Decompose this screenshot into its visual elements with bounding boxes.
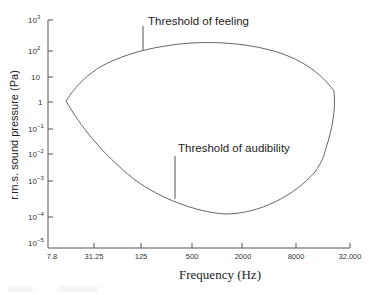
audibility-annotation: Threshold of audibility [178, 142, 290, 154]
y-ticks [48, 20, 53, 217]
threshold-of-feeling-curve [66, 43, 334, 101]
svg-text:31.25: 31.25 [85, 252, 104, 261]
svg-text:1: 1 [38, 98, 43, 107]
svg-text:500: 500 [186, 252, 199, 261]
feeling-annotation: Threshold of feeling [148, 15, 249, 27]
svg-text:102: 102 [28, 45, 41, 56]
curve-right-edge [326, 91, 335, 148]
svg-text:2000: 2000 [235, 252, 252, 261]
svg-text:8000: 8000 [288, 252, 305, 261]
svg-text:10−2: 10−2 [28, 148, 44, 159]
y-tick-labels: 103 102 10 1 10−1 10−2 10−3 10−4 10−5 [28, 14, 44, 248]
svg-text:10−4: 10−4 [28, 211, 44, 222]
svg-text:32,000: 32,000 [339, 252, 362, 261]
sound-threshold-chart: 103 102 10 1 10−1 10−2 10−3 10−4 10−5 7.… [0, 0, 375, 295]
svg-text:103: 103 [28, 14, 41, 25]
x-tick-labels: 7.8 31.25 125 500 2000 8000 32,000 [47, 252, 362, 261]
svg-text:10−1: 10−1 [28, 123, 44, 134]
svg-text:10−5: 10−5 [28, 237, 44, 248]
y-axis-label: r.m.s. sound pressure (Pa) [8, 70, 20, 200]
x-axis-label: Frequency (Hz) [179, 267, 261, 282]
svg-text:10: 10 [31, 73, 40, 82]
x-ticks [94, 243, 350, 248]
svg-text:10−3: 10−3 [28, 175, 44, 186]
svg-text:7.8: 7.8 [47, 252, 57, 261]
figure-caption-cutoff [8, 286, 98, 292]
threshold-of-audibility-curve [66, 101, 326, 214]
svg-text:125: 125 [135, 252, 148, 261]
